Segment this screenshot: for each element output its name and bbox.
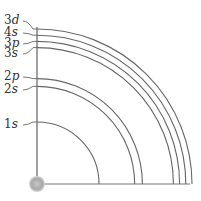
orbital-label-2s: 2s (4, 82, 18, 96)
leader-line-3s (23, 48, 37, 54)
orbital-label-3d: 3d (4, 13, 20, 27)
leader-line-2p (23, 77, 37, 79)
orbital-arc-3d (37, 29, 192, 184)
leader-line-4s (23, 33, 37, 35)
orbital-arc-3s (37, 48, 173, 184)
orbital-diagram: 1s2s2p3s3p4s3d (0, 0, 201, 201)
orbital-label-1s: 1s (4, 117, 18, 131)
orbital-arc-3p (37, 41, 180, 184)
orbital-label-2p: 2p (4, 69, 20, 83)
leader-line-3d (23, 21, 37, 29)
leader-line-3p (23, 41, 37, 44)
leader-line-1s (23, 122, 37, 125)
nucleus (29, 176, 45, 192)
orbital-label-4s: 4s (4, 25, 18, 39)
orbital-arc-2s (37, 86, 135, 184)
orbital-arc-2p (37, 79, 142, 184)
leader-line-2s (23, 86, 37, 90)
orbital-arc-1s (37, 122, 99, 184)
